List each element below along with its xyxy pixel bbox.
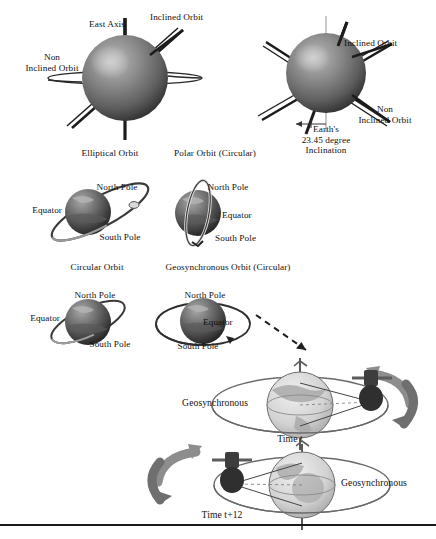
label-south-pole-r3-right: South Pole: [177, 341, 218, 352]
row2-graphics: [0, 180, 436, 270]
figure-canvas: East Axis Inclined Orbit Non Inclined Or…: [0, 0, 436, 539]
label-south-pole-r2-left: South Pole: [99, 232, 140, 243]
label-time-t-plus-12: Time t+12: [202, 510, 243, 521]
label-equator-r3-left: Equator: [30, 313, 60, 324]
label-equator-r2-left: Equator: [32, 205, 62, 216]
label-north-pole-r3-left: North Pole: [74, 290, 115, 301]
label-north-pole-r2-right: North Pole: [207, 182, 248, 193]
label-inclined-orbit-left: Inclined Orbit: [150, 12, 203, 23]
caption-polar-orbit: Polar Orbit (Circular): [174, 148, 256, 159]
footer-rule: [0, 524, 436, 526]
label-east-axis: East Axis: [89, 19, 125, 30]
caption-circular-orbit: Circular Orbit: [70, 262, 123, 273]
label-non-inclined-orbit-left: Non Inclined Orbit: [25, 52, 78, 73]
label-non-inclined-orbit-right: Non Inclined Orbit: [358, 104, 411, 125]
label-equator-r2-right: Equator: [222, 210, 252, 221]
label-south-pole-r3-left: South Pole: [89, 339, 130, 350]
caption-elliptical-orbit: Elliptical Orbit: [82, 148, 139, 159]
satellite-bottom: [212, 452, 252, 493]
label-inclined-orbit-right: Inclined Orbit: [344, 38, 397, 49]
label-south-pole-r2-right: South Pole: [215, 233, 256, 244]
label-north-pole-r3-right: North Pole: [184, 290, 225, 301]
label-geosynchronous-top: Geosynchronous: [182, 398, 248, 409]
dashed-connector-arrow: [256, 315, 306, 350]
label-geosynchronous-bottom: Geosynchronous: [341, 478, 407, 489]
label-earth-inclination: Earth's 23.45 degree Inclination: [302, 124, 351, 156]
globe-elliptical: [48, 18, 202, 140]
rotation-arrow-bottom: [152, 444, 202, 504]
label-equator-r3-right: Equator: [203, 317, 233, 328]
label-north-pole-r2-left: North Pole: [96, 182, 137, 193]
caption-geosynchronous-orbit: Geosynchronous Orbit (Circular): [165, 262, 290, 273]
